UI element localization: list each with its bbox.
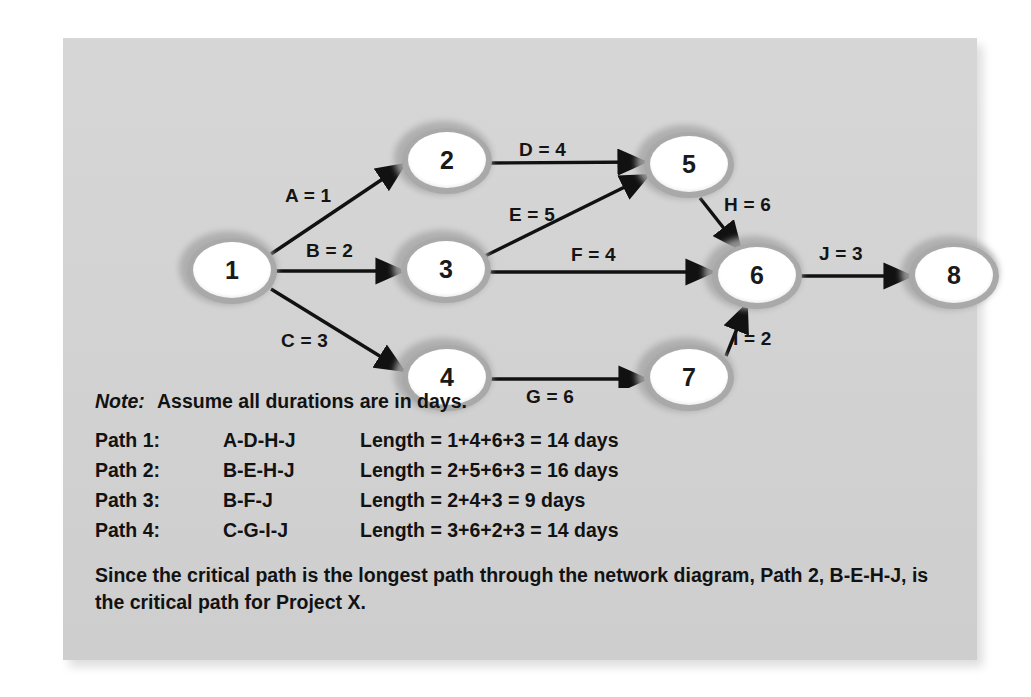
node-8[interactable]: 8 <box>901 236 1005 316</box>
path-length: Length = 3+6+2+3 = 14 days <box>360 519 955 542</box>
path-row: Path 1: A-D-H-J Length = 1+4+6+3 = 14 da… <box>95 429 955 452</box>
path-name: Path 3: <box>95 489 223 512</box>
conclusion-paragraph: Since the critical path is the longest p… <box>95 562 941 616</box>
edge-label-j: J = 3 <box>819 243 863 265</box>
node-3[interactable]: 3 <box>393 230 497 310</box>
explanation-text-block: Note: Assume all durations are in days. … <box>95 390 955 635</box>
figure-panel: 1 2 3 4 5 <box>63 38 977 660</box>
edge-label-d: D = 4 <box>519 139 566 161</box>
node-5[interactable]: 5 <box>636 125 740 205</box>
edge-label-c: C = 3 <box>281 330 328 352</box>
node-face: 6 <box>718 247 796 303</box>
node-face: 5 <box>650 136 728 192</box>
edge-label-i: I = 2 <box>733 328 772 350</box>
note-line: Note: Assume all durations are in days. <box>95 390 955 413</box>
path-code: C-G-I-J <box>223 519 360 542</box>
node-1[interactable]: 1 <box>179 231 283 311</box>
edge-label-b: B = 2 <box>306 240 353 262</box>
path-code: B-F-J <box>223 489 360 512</box>
path-length: Length = 2+5+6+3 = 16 days <box>360 459 955 482</box>
node-label: 5 <box>682 152 696 177</box>
node-face: 3 <box>407 241 485 297</box>
node-face: 1 <box>193 242 271 298</box>
node-label: 4 <box>440 365 454 390</box>
edge-label-a: A = 1 <box>285 185 331 207</box>
node-label: 1 <box>225 258 239 283</box>
node-2[interactable]: 2 <box>394 121 498 201</box>
node-label: 8 <box>947 263 961 288</box>
node-6[interactable]: 6 <box>704 236 808 316</box>
path-code: B-E-H-J <box>223 459 360 482</box>
path-length: Length = 1+4+6+3 = 14 days <box>360 429 955 452</box>
path-row: Path 4: C-G-I-J Length = 3+6+2+3 = 14 da… <box>95 519 955 542</box>
edge-label-f: F = 4 <box>571 244 616 266</box>
node-label: 6 <box>750 263 764 288</box>
path-row: Path 3: B-F-J Length = 2+4+3 = 9 days <box>95 489 955 512</box>
note-text: Assume all durations are in days. <box>157 390 467 413</box>
node-label: 2 <box>440 148 454 173</box>
node-label: 7 <box>682 365 696 390</box>
node-face: 2 <box>408 132 486 188</box>
path-name: Path 4: <box>95 519 223 542</box>
node-face: 8 <box>915 247 993 303</box>
path-length: Length = 2+4+3 = 9 days <box>360 489 955 512</box>
path-code: A-D-H-J <box>223 429 360 452</box>
network-diagram: 1 2 3 4 5 <box>63 38 977 388</box>
note-label: Note: <box>95 390 157 413</box>
path-name: Path 1: <box>95 429 223 452</box>
edge-label-e: E = 5 <box>509 204 555 226</box>
path-name: Path 2: <box>95 459 223 482</box>
node-label: 3 <box>439 257 453 282</box>
edge-e-line <box>483 175 649 257</box>
path-row: Path 2: B-E-H-J Length = 2+5+6+3 = 16 da… <box>95 459 955 482</box>
edge-d-line <box>487 162 646 163</box>
edge-label-h: H = 6 <box>724 194 771 216</box>
